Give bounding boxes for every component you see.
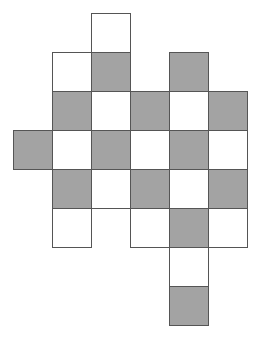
shaded-square [130, 169, 170, 209]
shaded-square [169, 130, 209, 170]
unshaded-square [52, 130, 92, 170]
unshaded-square [208, 130, 248, 170]
unshaded-square [130, 130, 170, 170]
unshaded-square [91, 91, 131, 131]
unshaded-square [52, 208, 92, 248]
shaded-square [52, 91, 92, 131]
shaded-square [13, 130, 53, 170]
unshaded-square [52, 52, 92, 92]
shaded-square [208, 169, 248, 209]
shaded-square [169, 208, 209, 248]
shaded-square [169, 52, 209, 92]
unshaded-square [208, 208, 248, 248]
unshaded-square [91, 13, 131, 53]
shaded-square [208, 91, 248, 131]
square-grid-diagram [0, 0, 262, 341]
unshaded-square [169, 247, 209, 287]
unshaded-square [91, 169, 131, 209]
shaded-square [91, 52, 131, 92]
unshaded-square [169, 91, 209, 131]
unshaded-square [169, 169, 209, 209]
shaded-square [169, 286, 209, 326]
shaded-square [91, 130, 131, 170]
shaded-square [130, 91, 170, 131]
shaded-square [52, 169, 92, 209]
unshaded-square [130, 208, 170, 248]
